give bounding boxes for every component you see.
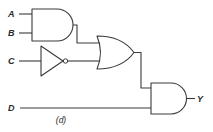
input-label-a: A bbox=[7, 9, 15, 19]
input-label-c: C bbox=[8, 56, 15, 66]
logic-circuit-diagram: A B C D Y (d) bbox=[0, 0, 213, 132]
input-label-b: B bbox=[8, 28, 15, 38]
wire-and1-to-or bbox=[73, 25, 100, 43]
not-gate-bubble bbox=[63, 59, 67, 63]
and-gate-2 bbox=[151, 83, 187, 114]
diagram-caption: (d) bbox=[56, 115, 67, 125]
output-label-y: Y bbox=[197, 94, 204, 104]
wire-or-to-and2 bbox=[134, 53, 151, 89]
or-gate bbox=[97, 36, 134, 69]
input-label-d: D bbox=[8, 103, 15, 113]
not-gate bbox=[41, 46, 63, 76]
and-gate-1 bbox=[32, 9, 73, 41]
